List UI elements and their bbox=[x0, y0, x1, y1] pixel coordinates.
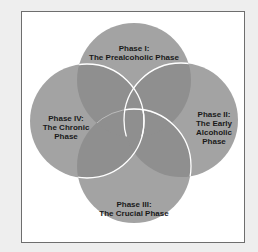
label-phase-2: Phase II: The Early Alcoholic Phase bbox=[184, 110, 244, 146]
label-phase-3: Phase III: The Crucial Phase bbox=[84, 200, 184, 218]
label-phase-1: Phase I: The Prealcoholic Phase bbox=[84, 44, 184, 62]
label-phase-4: Phase IV: The Chronic Phase bbox=[36, 114, 96, 141]
